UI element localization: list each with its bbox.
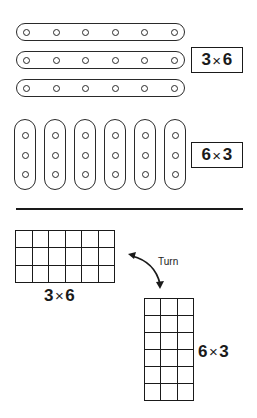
grid-cell (161, 367, 177, 384)
hole (172, 152, 179, 159)
hole (22, 152, 29, 159)
hole (141, 57, 148, 64)
grid-cell (16, 248, 33, 265)
grid-cell (16, 266, 33, 283)
grid-cell (49, 231, 66, 248)
hole (82, 85, 89, 92)
hole (82, 171, 89, 178)
label-number: 6 (198, 342, 208, 361)
hole (53, 85, 60, 92)
vertical-strip (14, 119, 36, 190)
grid-cell (161, 316, 177, 333)
hole (82, 152, 89, 159)
divider-line (16, 208, 243, 210)
horizontal-strip (16, 23, 185, 41)
hole (82, 29, 89, 36)
hole (112, 152, 119, 159)
label-number: 6 (65, 286, 75, 305)
hole (53, 57, 60, 64)
grid-cell (33, 266, 50, 283)
label-6x3-bottom: 6×3 (198, 342, 229, 362)
hole (82, 57, 89, 64)
grid-cell (161, 299, 177, 316)
label-number: 3 (219, 342, 229, 361)
hole (172, 171, 179, 178)
grid-cell (16, 231, 33, 248)
hole (171, 57, 178, 64)
label-6x3-middle: 6×3 (191, 142, 243, 168)
times-sign: × (212, 52, 221, 69)
hole (22, 171, 29, 178)
grid-cell (161, 384, 177, 401)
grid-cell (178, 316, 194, 333)
grid-cell (145, 384, 161, 401)
hole (141, 85, 148, 92)
hole (171, 85, 178, 92)
hole (112, 29, 119, 36)
grid-cell (178, 367, 194, 384)
grid-cell (82, 266, 99, 283)
grid-cell (178, 350, 194, 367)
grid-cell (33, 231, 50, 248)
vertical-strip (164, 119, 186, 190)
hole (22, 132, 29, 139)
vertical-strip (74, 119, 96, 190)
grid-cell (33, 248, 50, 265)
hole (142, 132, 149, 139)
grid-cell (66, 248, 83, 265)
label-number: 6 (223, 50, 233, 70)
hole (23, 57, 30, 64)
hole (52, 152, 59, 159)
hole (82, 132, 89, 139)
hole (172, 132, 179, 139)
grid-cell (145, 316, 161, 333)
grid-cell (161, 350, 177, 367)
grid-cell (82, 248, 99, 265)
grid-6x3 (144, 298, 194, 401)
hole (23, 29, 30, 36)
hole (142, 171, 149, 178)
horizontal-strip (16, 79, 185, 97)
label-3x6-top: 3×6 (191, 47, 243, 73)
grid-cell (161, 333, 177, 350)
grid-cell (178, 333, 194, 350)
grid-cell (49, 248, 66, 265)
hole (142, 152, 149, 159)
grid-cell (145, 367, 161, 384)
grid-cell (99, 266, 116, 283)
label-3x6-bottom: 3×6 (44, 286, 75, 306)
hole (112, 57, 119, 64)
grid-cell (82, 231, 99, 248)
hole (52, 171, 59, 178)
times-sign: × (55, 287, 64, 304)
hole (171, 29, 178, 36)
hole (52, 132, 59, 139)
label-number: 6 (201, 145, 211, 165)
grid-cell (66, 231, 83, 248)
label-number: 3 (201, 50, 211, 70)
turn-arrow-icon (125, 248, 170, 293)
grid-cell (99, 231, 116, 248)
grid-3x6 (15, 230, 115, 283)
grid-cell (178, 299, 194, 316)
vertical-strip (134, 119, 156, 190)
vertical-strip (44, 119, 66, 190)
grid-cell (145, 299, 161, 316)
grid-cell (66, 266, 83, 283)
grid-cell (178, 384, 194, 401)
hole (23, 85, 30, 92)
grid-cell (145, 333, 161, 350)
grid-cell (99, 248, 116, 265)
grid-cell (145, 350, 161, 367)
label-number: 3 (223, 145, 233, 165)
hole (141, 29, 148, 36)
label-number: 3 (44, 286, 54, 305)
hole (112, 85, 119, 92)
hole (112, 171, 119, 178)
times-sign: × (209, 343, 218, 360)
turn-label: Turn (158, 256, 178, 267)
hole (112, 132, 119, 139)
times-sign: × (212, 147, 221, 164)
horizontal-strip (16, 51, 185, 69)
hole (53, 29, 60, 36)
